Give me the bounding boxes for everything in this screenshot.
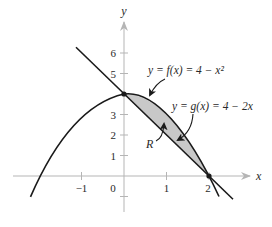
- x-tick-label-0: 0: [110, 182, 116, 194]
- x-tick-label-1: 1: [164, 182, 170, 194]
- y-tick-label-5: 5: [111, 68, 117, 80]
- region-label: R: [145, 137, 154, 151]
- f-label-arrow: [150, 79, 165, 95]
- g-equation-label: y = g(x) = 4 − 2x: [171, 100, 254, 113]
- y-tick-label-3: 3: [111, 109, 117, 121]
- y-tick-label-1: 1: [111, 150, 117, 162]
- f-equation-label: y = f(x) = 4 − x²: [147, 64, 224, 77]
- y-tick-label-2: 2: [111, 129, 117, 141]
- x-tick-label-2: 2: [205, 182, 211, 194]
- area-between-curves-diagram: −1 0 1 2 1 2 3 5 6 x y y = f(x) = 4 − x²…: [0, 0, 272, 227]
- y-axis-label: y: [120, 4, 127, 18]
- x-tick-label-neg1: −1: [76, 182, 88, 194]
- intersection-point-0-4: [121, 91, 126, 96]
- intersection-point-2-0: [206, 173, 211, 178]
- x-axis-label: x: [255, 169, 262, 183]
- y-tick-label-6: 6: [111, 47, 117, 59]
